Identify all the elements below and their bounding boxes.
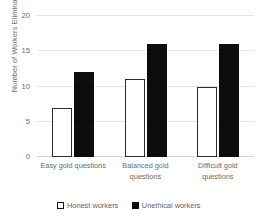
bar-honest-0[interactable]: [52, 108, 72, 157]
bar-unethical-2[interactable]: [219, 44, 239, 157]
bar-honest-1[interactable]: [125, 79, 145, 157]
y-tick-label-10: 10: [22, 83, 30, 91]
y-tick-label-0: 0: [26, 153, 30, 161]
x-category-label-2: Difficult gold questions: [182, 161, 254, 182]
legend-swatch-honest-icon: [57, 202, 64, 209]
x-axis-category-labels: Easy gold questionsBalanced gold questio…: [37, 161, 254, 193]
bar-unethical-1[interactable]: [147, 44, 167, 157]
chart-legend: Honest workersUnethical workers: [0, 201, 258, 210]
plot-area: [37, 16, 254, 157]
legend-swatch-unethical-icon: [132, 202, 139, 209]
legend-item-unethical[interactable]: Unethical workers: [132, 201, 200, 210]
bar-honest-2[interactable]: [197, 87, 217, 158]
y-tick-label-20: 20: [22, 12, 30, 20]
bar-chart: Number of Workers Eliminated 05101520 Ea…: [0, 0, 258, 223]
y-tick-label-15: 15: [22, 47, 30, 55]
legend-item-honest[interactable]: Honest workers: [57, 201, 118, 210]
x-category-label-1: Balanced gold questions: [109, 161, 181, 182]
x-category-label-0: Easy gold questions: [37, 161, 109, 172]
y-tick-label-5: 5: [26, 118, 30, 126]
legend-label-honest: Honest workers: [67, 201, 118, 210]
y-axis-tick-labels: 05101520: [0, 0, 37, 223]
legend-label-unethical: Unethical workers: [142, 201, 201, 210]
gridline-20: [37, 15, 254, 16]
bar-unethical-0[interactable]: [74, 72, 94, 157]
